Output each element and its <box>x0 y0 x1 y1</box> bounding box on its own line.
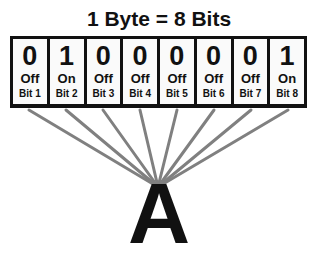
encoded-character: A <box>126 170 192 253</box>
